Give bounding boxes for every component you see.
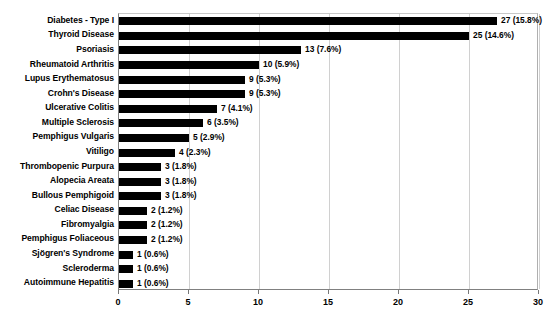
x-tick-label: 15 [323, 297, 333, 307]
category-label: Psoriasis [0, 45, 114, 54]
bar [119, 192, 161, 200]
bar-chart: Diabetes - Type IThyroid DiseasePsoriasi… [0, 0, 551, 316]
bar [119, 17, 497, 25]
bar-row: 2 (1.2%) [119, 221, 539, 229]
category-label: Bullous Pemphigoid [0, 191, 114, 200]
bar-value-label: 2 (1.2%) [151, 235, 183, 244]
bar [119, 61, 259, 69]
x-tick-label: 0 [115, 297, 120, 307]
x-tick-30 [538, 290, 539, 294]
bar-row: 3 (1.8%) [119, 163, 539, 171]
bar [119, 221, 147, 229]
bar-value-label: 9 (5.3%) [249, 75, 281, 84]
bar-value-label: 25 (14.6%) [473, 31, 514, 40]
category-label: Vitiligo [0, 147, 114, 156]
category-label: Alopecia Areata [0, 176, 114, 185]
bar-value-label: 1 (0.6%) [137, 264, 169, 273]
bar [119, 46, 301, 54]
x-tick-25 [468, 290, 469, 294]
category-label: Sjögren's Syndrome [0, 249, 114, 258]
bar-value-label: 1 (0.6%) [137, 279, 169, 288]
bar-value-label: 6 (3.5%) [207, 118, 239, 127]
category-label: Multiple Sclerosis [0, 118, 114, 127]
bar-row: 2 (1.2%) [119, 236, 539, 244]
x-tick-5 [188, 290, 189, 294]
bar-row: 27 (15.8%) [119, 17, 539, 25]
category-label: Thrombopenic Purpura [0, 162, 114, 171]
bar-value-label: 7 (4.1%) [221, 104, 253, 113]
category-label: Diabetes - Type I [0, 16, 114, 25]
x-tick-label: 5 [185, 297, 190, 307]
bar-row: 1 (0.6%) [119, 251, 539, 259]
bar-value-label: 5 (2.9%) [193, 133, 225, 142]
bar-value-label: 3 (1.8%) [165, 162, 197, 171]
category-label: Autoimmune Hepatitis [0, 278, 114, 287]
bar [119, 134, 189, 142]
bar [119, 76, 245, 84]
bar-row: 3 (1.8%) [119, 192, 539, 200]
bar-value-label: 9 (5.3%) [249, 89, 281, 98]
category-label: Pemphigus Vulgaris [0, 132, 114, 141]
bar-row: 13 (7.6%) [119, 46, 539, 54]
bar-row: 9 (5.3%) [119, 90, 539, 98]
category-label: Fibromyalgia [0, 220, 114, 229]
category-label: Crohn's Disease [0, 89, 114, 98]
bar [119, 105, 217, 113]
bar-row: 9 (5.3%) [119, 76, 539, 84]
x-tick-label: 30 [533, 297, 543, 307]
bar-value-label: 27 (15.8%) [501, 16, 542, 25]
bar-row: 7 (4.1%) [119, 105, 539, 113]
category-label: Celiac Disease [0, 205, 114, 214]
bar [119, 163, 161, 171]
bar-row: 2 (1.2%) [119, 207, 539, 215]
bar [119, 178, 161, 186]
x-tick-label: 10 [253, 297, 263, 307]
bar-value-label: 3 (1.8%) [165, 177, 197, 186]
bar-value-label: 13 (7.6%) [305, 45, 341, 54]
bar-row: 4 (2.3%) [119, 149, 539, 157]
category-label: Pemphigus Foliaceous [0, 234, 114, 243]
bar [119, 251, 133, 259]
bar-value-label: 10 (5.9%) [263, 60, 299, 69]
x-tick-10 [258, 290, 259, 294]
category-label: Thyroid Disease [0, 30, 114, 39]
bar-row: 1 (0.6%) [119, 280, 539, 288]
bar-value-label: 2 (1.2%) [151, 220, 183, 229]
x-tick-label: 20 [393, 297, 403, 307]
bar [119, 119, 203, 127]
bar [119, 90, 245, 98]
x-tick-0 [118, 290, 119, 294]
bar [119, 149, 175, 157]
bar [119, 207, 147, 215]
x-tick-label: 25 [463, 297, 473, 307]
bar-value-label: 1 (0.6%) [137, 250, 169, 259]
bar-value-label: 2 (1.2%) [151, 206, 183, 215]
category-label: Scleroderma [0, 264, 114, 273]
plot-area: 27 (15.8%)25 (14.6%)13 (7.6%)10 (5.9%)9 … [118, 13, 538, 290]
bar [119, 265, 133, 273]
x-axis: 051015202530 [118, 290, 538, 316]
bar [119, 236, 147, 244]
bar [119, 32, 469, 40]
bar-row: 3 (1.8%) [119, 178, 539, 186]
x-tick-20 [398, 290, 399, 294]
bar-row: 10 (5.9%) [119, 61, 539, 69]
bar-row: 1 (0.6%) [119, 265, 539, 273]
bar [119, 280, 133, 288]
x-tick-15 [328, 290, 329, 294]
bar-value-label: 3 (1.8%) [165, 191, 197, 200]
category-label: Ulcerative Colitis [0, 103, 114, 112]
bar-value-label: 4 (2.3%) [179, 148, 211, 157]
bar-row: 5 (2.9%) [119, 134, 539, 142]
category-label: Rheumatoid Arthritis [0, 60, 114, 69]
category-axis-labels: Diabetes - Type IThyroid DiseasePsoriasi… [0, 13, 114, 290]
bar-row: 25 (14.6%) [119, 32, 539, 40]
gridline-30 [539, 14, 540, 289]
bar-row: 6 (3.5%) [119, 119, 539, 127]
category-label: Lupus Erythematosus [0, 74, 114, 83]
